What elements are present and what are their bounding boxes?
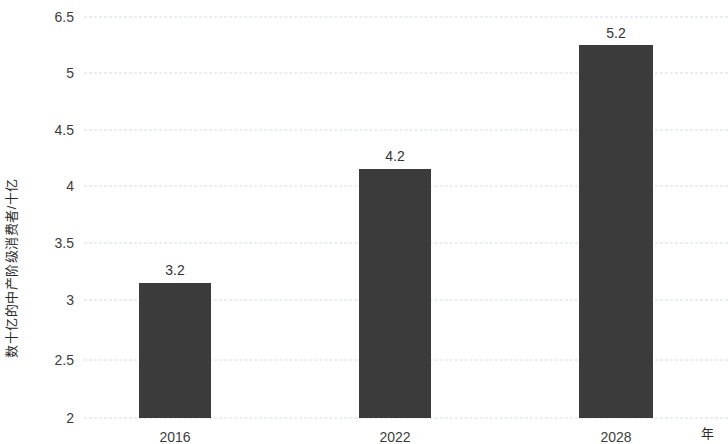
gridline bbox=[84, 17, 728, 18]
bar[interactable] bbox=[579, 45, 653, 418]
y-axis-tick-label: 6.5 bbox=[30, 9, 74, 25]
y-axis-tick-label: 5 bbox=[30, 65, 74, 81]
bar[interactable] bbox=[359, 169, 431, 418]
y-axis-tick-label: 3 bbox=[30, 292, 74, 308]
x-axis-tick-label: 2016 bbox=[159, 429, 190, 444]
x-axis-title: 年 bbox=[701, 423, 714, 442]
x-axis-tick-label: 2028 bbox=[600, 429, 631, 444]
bar-value-label: 5.2 bbox=[606, 25, 625, 41]
y-axis-tick-labels: 6.554.543.532.52 bbox=[0, 0, 74, 444]
y-axis-tick-label: 4 bbox=[30, 178, 74, 194]
y-axis-tick-label: 3.5 bbox=[30, 235, 74, 251]
bar-chart: 数十亿的中产阶级消费者/十亿 6.554.543.532.52 3.24.25.… bbox=[0, 0, 728, 444]
bar[interactable] bbox=[139, 283, 211, 418]
plot-area: 3.24.25.2201620222028 bbox=[84, 0, 728, 444]
y-axis-tick-label: 4.5 bbox=[30, 122, 74, 138]
x-axis-tick-label: 2022 bbox=[379, 429, 410, 444]
y-axis-tick-label: 2 bbox=[30, 410, 74, 426]
bar-value-label: 3.2 bbox=[165, 262, 184, 278]
y-axis-tick-label: 2.5 bbox=[30, 352, 74, 368]
bar-value-label: 4.2 bbox=[385, 148, 404, 164]
